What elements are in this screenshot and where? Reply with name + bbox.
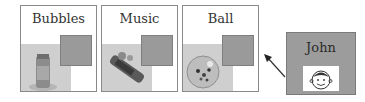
arrow-icon <box>262 52 288 80</box>
card-ball[interactable]: Ball <box>182 5 259 92</box>
face-drawing <box>303 66 339 91</box>
card-music[interactable]: Music <box>101 5 178 92</box>
target-card-john[interactable]: John <box>286 32 356 95</box>
card-label: Bubbles <box>21 11 96 26</box>
card-label: Music <box>102 11 177 26</box>
gray-swatch <box>60 35 92 66</box>
gray-swatch <box>141 35 173 66</box>
card-bubbles[interactable]: Bubbles <box>20 5 97 92</box>
target-label: John <box>287 40 355 55</box>
smiley-face-icon <box>303 66 339 91</box>
card-label: Ball <box>183 11 258 26</box>
gray-swatch <box>222 35 254 66</box>
